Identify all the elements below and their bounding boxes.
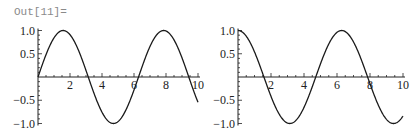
y-tick-label: 0.5 xyxy=(220,47,235,61)
x-tick-label: 2 xyxy=(67,78,73,92)
x-tick-label: 4 xyxy=(301,78,307,92)
y-tick-label: 1.0 xyxy=(220,24,235,38)
y-tick-label: −1.0 xyxy=(213,117,235,131)
y-tick-label: −0.5 xyxy=(13,93,35,107)
x-tick-label: 10 xyxy=(397,78,409,92)
x-tick-label: 4 xyxy=(99,78,105,92)
y-tick-label: −0.5 xyxy=(213,93,235,107)
plot-sin: 2468101.00.5−0.5−1.0 xyxy=(13,24,204,131)
y-tick-label: 1.0 xyxy=(20,24,35,38)
plot-cos: 2468101.00.5−0.5−1.0 xyxy=(213,24,409,131)
x-tick-label: 6 xyxy=(334,78,340,92)
plots-canvas: 2468101.00.5−0.5−1.0 2468101.00.5−0.5−1.… xyxy=(0,0,419,140)
y-tick-label: −1.0 xyxy=(13,117,35,131)
y-tick-label: 0.5 xyxy=(20,47,35,61)
x-tick-label: 8 xyxy=(163,78,169,92)
